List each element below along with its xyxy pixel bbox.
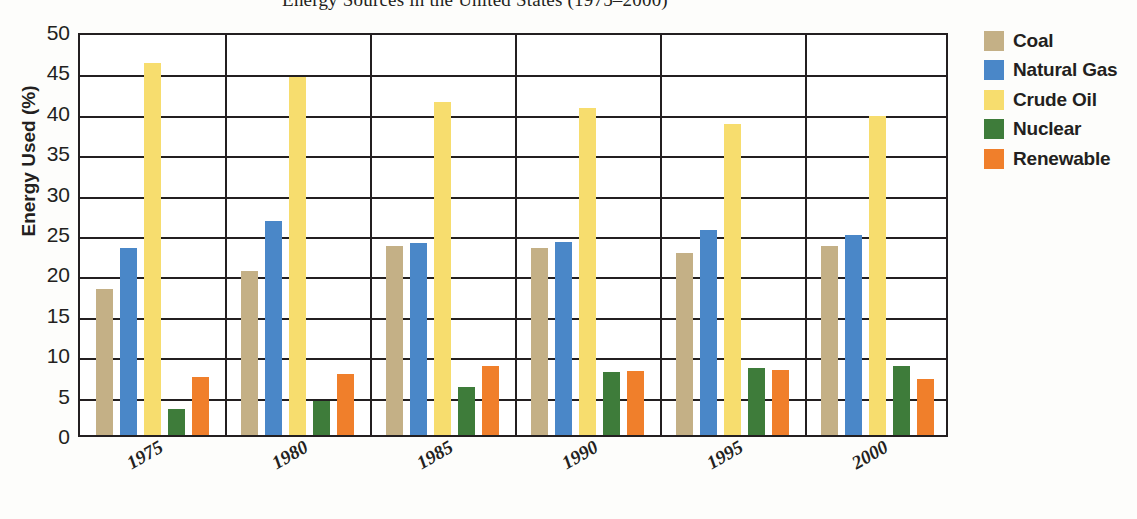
legend-item-crude-oil[interactable]: Crude Oil — [984, 85, 1134, 115]
bar-coal-2000 — [821, 246, 838, 435]
x-tick-2000: 2000 — [848, 436, 892, 474]
bar-nuclear-1975 — [168, 409, 185, 435]
legend-swatch-icon — [984, 31, 1004, 51]
bar-renewable-1980 — [337, 374, 354, 435]
bar-crude-oil-1975 — [144, 63, 161, 435]
bar-coal-1985 — [386, 246, 403, 435]
bar-natural-gas-1980 — [265, 221, 282, 435]
bar-crude-oil-1985 — [434, 102, 451, 435]
y-axis-title: Energy Used (%) — [18, 11, 40, 311]
legend-label: Coal — [1013, 30, 1053, 52]
bar-natural-gas-1975 — [120, 248, 137, 435]
legend-item-coal[interactable]: Coal — [984, 26, 1134, 56]
bar-renewable-2000 — [917, 379, 934, 435]
bar-nuclear-1990 — [603, 372, 620, 435]
bar-natural-gas-1990 — [555, 242, 572, 435]
bar-group-1975 — [80, 35, 225, 435]
y-tick-0: 0 — [0, 425, 70, 449]
bar-renewable-1995 — [772, 370, 789, 435]
legend-label: Renewable — [1013, 148, 1110, 170]
legend-label: Nuclear — [1013, 118, 1081, 140]
y-tick-10: 10 — [0, 344, 70, 368]
bar-coal-1975 — [96, 289, 113, 435]
bar-renewable-1985 — [482, 366, 499, 435]
bar-crude-oil-1980 — [289, 77, 306, 435]
chart-screenshot: Energy Sources in the United States (197… — [0, 0, 1137, 519]
plot-area — [78, 33, 948, 437]
legend-swatch-icon — [984, 90, 1004, 110]
bar-nuclear-1985 — [458, 387, 475, 435]
bar-nuclear-1980 — [313, 401, 330, 435]
x-tick-1990: 1990 — [558, 436, 602, 474]
bar-nuclear-1995 — [748, 368, 765, 435]
x-tick-1980: 1980 — [268, 436, 312, 474]
bar-coal-1990 — [531, 248, 548, 435]
x-tick-1995: 1995 — [703, 436, 747, 474]
chart-title: Energy Sources in the United States (197… — [0, 0, 950, 11]
legend-label: Natural Gas — [1013, 59, 1117, 81]
bar-group-1980 — [225, 35, 370, 435]
x-tick-1985: 1985 — [413, 436, 457, 474]
bar-renewable-1990 — [627, 371, 644, 435]
bar-crude-oil-1995 — [724, 124, 741, 435]
legend-swatch-icon — [984, 119, 1004, 139]
bar-coal-1995 — [676, 253, 693, 435]
bar-renewable-1975 — [192, 377, 209, 435]
legend-item-natural-gas[interactable]: Natural Gas — [984, 56, 1134, 86]
legend-swatch-icon — [984, 149, 1004, 169]
legend-item-nuclear[interactable]: Nuclear — [984, 115, 1134, 145]
x-tick-1975: 1975 — [123, 436, 167, 474]
y-tick-5: 5 — [0, 385, 70, 409]
bar-natural-gas-2000 — [845, 235, 862, 435]
bar-group-1985 — [370, 35, 515, 435]
bar-group-1990 — [515, 35, 660, 435]
bar-natural-gas-1985 — [410, 243, 427, 435]
bar-crude-oil-1990 — [579, 108, 596, 435]
legend-swatch-icon — [984, 60, 1004, 80]
legend-item-renewable[interactable]: Renewable — [984, 144, 1134, 174]
bar-coal-1980 — [241, 271, 258, 435]
bar-nuclear-2000 — [893, 366, 910, 435]
legend-label: Crude Oil — [1013, 89, 1097, 111]
bar-group-2000 — [805, 35, 950, 435]
bar-group-1995 — [660, 35, 805, 435]
chart-legend: CoalNatural GasCrude OilNuclearRenewable — [984, 26, 1134, 174]
bar-natural-gas-1995 — [700, 230, 717, 435]
bar-crude-oil-2000 — [869, 116, 886, 435]
